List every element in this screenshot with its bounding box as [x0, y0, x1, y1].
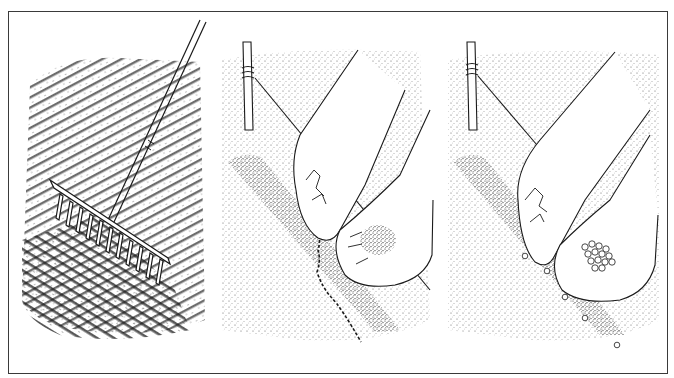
panel-rake	[22, 20, 206, 339]
fine-seed-pile	[360, 225, 396, 255]
panel-large-seed	[448, 42, 660, 348]
sowing-illustration	[0, 0, 674, 378]
panel-fine-seed	[222, 42, 433, 342]
